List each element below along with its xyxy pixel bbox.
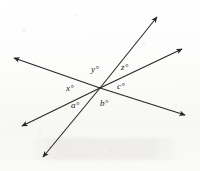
ray-lower-left <box>22 88 100 126</box>
ray-bottom-left <box>43 88 100 157</box>
angle-label-x: x° <box>66 84 74 93</box>
rays-group <box>14 17 185 157</box>
ray-top-right <box>100 17 157 88</box>
angle-label-a: a° <box>71 101 80 110</box>
angle-label-c: c° <box>117 82 125 91</box>
angle-label-b: b° <box>100 99 109 108</box>
angle-diagram-figure: x°y°z°c°b°a° <box>0 0 200 171</box>
ray-upper-left <box>14 58 100 88</box>
lines-canvas <box>0 0 200 171</box>
ray-upper-right <box>100 49 182 88</box>
angle-label-y: y° <box>91 65 99 74</box>
angle-label-z: z° <box>121 63 129 72</box>
ray-lower-right <box>100 88 185 115</box>
